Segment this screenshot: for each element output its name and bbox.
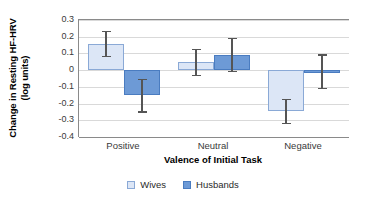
y-axis-title: Change in Resting HF-HRV (log units)	[7, 8, 39, 148]
y-axis-tick-label: -0.4	[44, 131, 74, 141]
error-bar-cap-upper	[228, 38, 237, 39]
gridline	[79, 104, 349, 105]
y-axis-tick-label: -0.3	[44, 114, 74, 124]
x-axis-tick-label-positive: Positive	[106, 140, 139, 151]
gridline	[79, 120, 349, 121]
x-axis-tick-labels: PositiveNeutralNegative	[78, 140, 348, 154]
error-bar-cap-lower	[282, 123, 291, 124]
error-bar-line	[141, 79, 142, 112]
y-axis-title-line-1: Change in Resting HF-HRV	[7, 8, 19, 148]
plot-area	[78, 19, 349, 137]
gridline	[79, 20, 349, 21]
error-bar-cap-lower	[228, 71, 237, 72]
legend-item-wives: Wives	[127, 179, 166, 190]
x-axis-line	[79, 137, 349, 138]
x-axis-tick-label-negative: Negative	[284, 140, 322, 151]
x-axis-title: Valence of Initial Task	[78, 154, 348, 165]
error-bar-cap-lower	[102, 56, 111, 57]
error-bar-cap-upper	[192, 49, 201, 50]
y-axis-tick-labels: 0.30.20.10-0.1-0.2-0.3-0.4	[44, 0, 74, 202]
error-bar-cap-upper	[138, 79, 147, 80]
chart-legend: WivesHusbands	[0, 179, 366, 190]
y-axis-tick-label: 0.2	[44, 31, 74, 41]
legend-label-husbands: Husbands	[196, 179, 239, 190]
y-axis-title-line-2: (log units)	[19, 8, 31, 148]
legend-swatch-wives	[127, 181, 135, 189]
error-bar-cap-lower	[318, 88, 327, 89]
gridline	[79, 37, 349, 38]
x-axis-tick-label-neutral: Neutral	[198, 140, 229, 151]
error-bar-cap-lower	[138, 111, 147, 112]
y-axis-tick-label: -0.1	[44, 81, 74, 91]
error-bar-cap-upper	[102, 31, 111, 32]
y-axis-tick-label: -0.2	[44, 98, 74, 108]
error-bar-cap-lower	[192, 75, 201, 76]
error-bar-line	[105, 32, 106, 57]
error-bar-line	[285, 99, 286, 123]
legend-item-husbands: Husbands	[183, 179, 239, 190]
gridline	[79, 87, 349, 88]
y-axis-tick-label: 0.1	[44, 47, 74, 57]
legend-swatch-husbands	[183, 181, 191, 189]
legend-label-wives: Wives	[140, 179, 166, 190]
chart-figure: Change in Resting HF-HRV (log units) 0.3…	[0, 0, 366, 202]
error-bar-cap-upper	[282, 99, 291, 100]
error-bar-line	[321, 55, 322, 88]
y-axis-tick-label: 0	[44, 64, 74, 74]
error-bar-line	[195, 49, 196, 75]
error-bar-cap-upper	[318, 54, 327, 55]
y-axis-tick-label: 0.3	[44, 14, 74, 24]
error-bar-line	[231, 38, 232, 71]
